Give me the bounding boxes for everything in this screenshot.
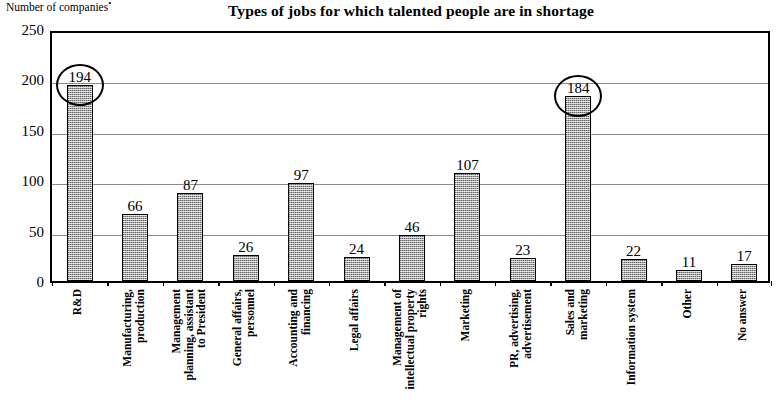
- x-axis-tick-label-line: planning, assistant: [182, 289, 195, 380]
- bar: [621, 259, 647, 281]
- x-axis-tick-label-line: Marketing: [459, 289, 472, 341]
- gridline: [52, 83, 768, 84]
- bar-value-label: 23: [493, 243, 553, 258]
- x-axis-tick-label-line: Accounting and: [287, 289, 300, 367]
- x-axis-tick-label-line: Sales and: [564, 289, 577, 340]
- y-axis-label: Number of companies•: [6, 1, 111, 13]
- bar: [177, 193, 203, 281]
- x-axis-tick-label-line: production: [133, 289, 146, 367]
- chart-title: Types of jobs for which talented people …: [196, 2, 626, 20]
- y-axis-tick-label: 200: [0, 73, 44, 88]
- y-axis-tick-label: 250: [0, 23, 44, 38]
- bar-value-label: 22: [604, 244, 664, 259]
- x-axis-tick-label-line: intellectual property: [404, 289, 417, 389]
- x-axis-tick-label: General affairs,personnel: [231, 289, 256, 366]
- bar-value-label: 46: [382, 220, 442, 235]
- x-axis-tick-label-line: financing: [299, 289, 312, 367]
- x-axis-tick-label-line: rights: [416, 289, 429, 389]
- x-axis-tick-label-line: personnel: [244, 289, 257, 366]
- x-axis-tick-label-line: General affairs,: [231, 289, 244, 366]
- bar: [676, 270, 702, 281]
- bar-value-label: 66: [105, 199, 165, 214]
- bar-value-label: 87: [160, 178, 220, 193]
- bar-value-label: 97: [271, 168, 331, 183]
- bar: [399, 235, 425, 281]
- x-axis-tick-label: Other: [681, 289, 694, 318]
- bar: [288, 183, 314, 281]
- x-axis-tick-label: Accounting andfinancing: [287, 289, 312, 367]
- x-axis-tick-label: Managementplanning, assistantto Presiden…: [170, 289, 208, 380]
- bar-value-label: 11: [659, 255, 719, 270]
- bar-value-label: 26: [216, 240, 276, 255]
- x-axis-tick-label-line: to President: [195, 289, 208, 380]
- bar: [731, 264, 757, 281]
- x-axis-tick-labels: R&DManufacturing,productionManagementpla…: [0, 283, 778, 402]
- bar: [454, 173, 480, 281]
- bar: [510, 258, 536, 281]
- x-axis-tick-label-line: Manufacturing,: [121, 289, 134, 367]
- y-axis-tick-label: 150: [0, 124, 44, 139]
- x-axis-tick-label-line: Legal affairs: [348, 289, 361, 351]
- highlight-circle-annotation: [56, 64, 104, 106]
- x-axis-tick-label: No answer: [736, 289, 749, 341]
- plot-area: 19466872697244610723184221117: [50, 31, 770, 283]
- x-axis-tick-label-line: Management: [170, 289, 183, 380]
- x-axis-tick-label-line: R&D: [71, 289, 84, 315]
- bar: [67, 85, 93, 281]
- y-axis-tick-label: 50: [0, 225, 44, 240]
- x-axis-tick-label: Sales andmarketing: [564, 289, 589, 340]
- bar: [122, 214, 148, 281]
- x-axis-tick-label: Marketing: [459, 289, 472, 341]
- y-axis-label-superscript: •: [108, 0, 111, 8]
- x-axis-tick-label-line: No answer: [736, 289, 749, 341]
- x-axis-tick-label-line: marketing: [576, 289, 589, 340]
- highlight-circle-annotation: [554, 75, 602, 117]
- x-axis-tick-label: PR, advertising,advertisement: [508, 289, 533, 368]
- x-axis-tick-label-line: Management of: [391, 289, 404, 389]
- x-axis-tick-label-line: Information system: [625, 289, 638, 385]
- gridline: [52, 184, 768, 185]
- y-axis-tick-label: 100: [0, 174, 44, 189]
- x-axis-tick-label: Legal affairs: [348, 289, 361, 351]
- x-axis-tick-label: R&D: [71, 289, 84, 315]
- x-axis-tick-label-line: PR, advertising,: [508, 289, 521, 368]
- bar-value-label: 107: [437, 158, 497, 173]
- bar-value-label: 17: [714, 249, 774, 264]
- y-axis-label-text: Number of companies: [6, 1, 108, 13]
- x-axis-tick-label: Information system: [625, 289, 638, 385]
- bar: [565, 96, 591, 281]
- bar: [233, 255, 259, 281]
- x-axis-tick-label-line: Other: [681, 289, 694, 318]
- x-axis-tick-label: Management ofintellectual propertyrights: [391, 289, 429, 389]
- plot-inner: 19466872697244610723184221117: [52, 33, 768, 281]
- gridline: [52, 134, 768, 135]
- x-axis-tick-label-line: advertisement: [521, 289, 534, 368]
- bar: [344, 257, 370, 281]
- bar-value-label: 24: [327, 242, 387, 257]
- x-axis-tick-label: Manufacturing,production: [121, 289, 146, 367]
